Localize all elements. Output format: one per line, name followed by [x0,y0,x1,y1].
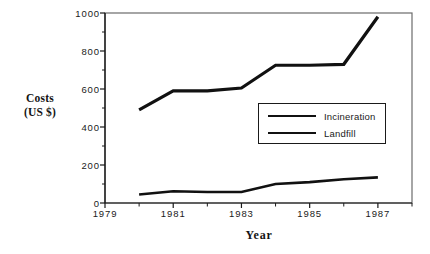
x-tick-label: 1981 [148,208,198,219]
y-tick-label: 200 [62,160,100,171]
legend-item-landfill: Landfill [259,125,387,141]
legend-line-swatch-landfill [268,132,316,135]
x-axis-tick-labels: 19791981198319851987 [0,208,430,224]
x-tick-label: 1983 [216,208,266,219]
x-axis-title: Year [105,228,413,243]
y-tick-label: 600 [62,84,100,95]
y-tick-label: 400 [62,122,100,133]
y-axis-title-line1: Costs [26,92,54,104]
x-tick-label: 1985 [285,208,335,219]
y-tick-label: 1000 [62,8,100,19]
y-tick-label: 800 [62,46,100,57]
legend-label-landfill: Landfill [324,128,356,139]
y-tick-label: 0 [62,198,100,209]
x-tick-label: 1987 [353,208,403,219]
legend-label-incineration: Incineration [324,111,376,122]
chart-legend: Incineration Landfill [258,103,386,144]
x-tick-label: 1979 [80,208,130,219]
legend-line-swatch-incineration [268,115,316,118]
legend-item-incineration: Incineration [259,108,387,124]
line-chart: Costs (US $) 02004006008001000 197919811… [0,0,430,254]
